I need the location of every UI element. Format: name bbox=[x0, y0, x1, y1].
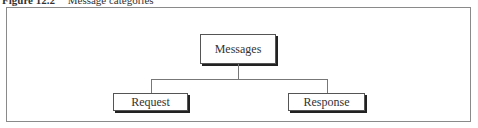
figure-title: Message categories bbox=[68, 0, 154, 6]
connector-request bbox=[151, 79, 152, 93]
connector-response bbox=[327, 79, 328, 93]
node-messages: Messages bbox=[200, 34, 276, 64]
node-response-label: Response bbox=[304, 95, 350, 110]
connector-root-down bbox=[238, 64, 239, 79]
figure-label: Figure 12.2 bbox=[2, 0, 55, 6]
connector-horizontal bbox=[151, 79, 328, 80]
node-messages-label: Messages bbox=[215, 42, 262, 57]
node-request-label: Request bbox=[131, 95, 170, 110]
figure-caption: Figure 12.2 Message categories bbox=[2, 0, 154, 6]
node-response: Response bbox=[288, 93, 365, 111]
node-request: Request bbox=[113, 93, 188, 111]
